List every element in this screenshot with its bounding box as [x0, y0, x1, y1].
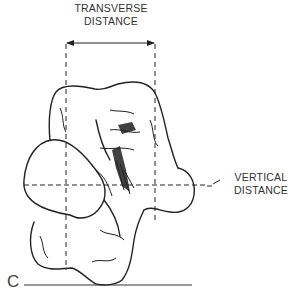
bone-diagram	[0, 0, 301, 296]
vertical-distance-pointer	[207, 180, 220, 186]
vertical-guide-lines	[66, 44, 155, 270]
bone-outline	[24, 82, 194, 285]
